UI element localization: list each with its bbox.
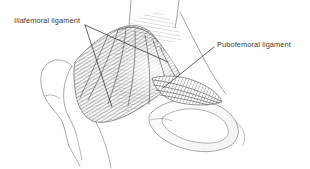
trochanter-notch [44,95,60,99]
label-iliofemoral-ligament: Iliafemoral ligament [14,16,80,25]
lesser-trochanter [96,122,111,168]
iliac-crest-left [129,0,131,27]
femur-greater-trochanter [41,60,72,146]
femoral-shaft [69,146,80,166]
iliac-crest-right [175,0,179,28]
femoral-shaft-medial [76,133,82,160]
hip-ligament-diagram [0,0,310,169]
label-pubofemoral-ligament: Pubofemoral ligament [217,40,291,49]
